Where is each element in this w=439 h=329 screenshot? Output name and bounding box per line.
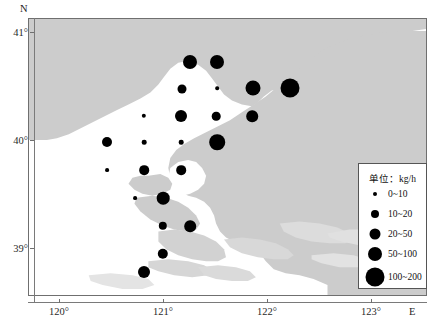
x-axis-line [28,302,427,303]
station-dot [157,192,170,205]
legend-label: 0~10 [388,189,407,199]
x-tick-mark [371,299,372,303]
station-dot [209,134,225,150]
x-tick-mark [59,299,60,303]
station-dot [138,266,150,278]
y-tick-label: 39° [2,243,28,254]
station-dot [105,168,109,172]
legend-label: 50~100 [388,249,417,259]
legend-label: 100~200 [388,272,422,282]
east-axis-label: E [409,306,415,317]
y-tick-mark [30,32,34,33]
x-tick-label: 121° [153,306,173,317]
bubble-map-figure: N E 120°12 [0,0,439,329]
x-tick-mark [163,299,164,303]
station-dot [139,165,149,175]
station-dot [178,85,187,94]
station-dot [179,140,184,145]
station-dot [133,196,137,200]
station-dot [176,165,186,175]
x-tick-mark [267,299,268,303]
legend-swatch [366,268,385,287]
station-dot [210,55,224,69]
y-tick-label: 41° [2,27,28,38]
y-tick-label: 40° [2,135,28,146]
x-tick-label: 123° [361,306,381,317]
station-dot [246,110,258,122]
legend-swatch [370,229,381,240]
y-tick-mark [30,140,34,141]
legend-label: 20~50 [388,229,412,239]
x-tick-label: 122° [257,306,277,317]
legend-title: 单位：kg/h [359,171,426,185]
legend-swatch [373,192,377,196]
station-dot [142,140,147,145]
legend-label: 10~20 [388,209,412,219]
station-dot [246,81,261,96]
legend-box: 单位：kg/h 0~1010~2020~5050~100100~200 [358,163,427,289]
y-axis-line [34,18,35,302]
x-tick-label: 120° [49,306,69,317]
north-axis-label: N [20,3,28,14]
station-dot [184,220,196,232]
station-dot [281,79,300,98]
legend-swatch [368,247,382,261]
station-dot [215,86,219,90]
y-tick-mark [30,248,34,249]
legend-swatch [371,210,379,218]
station-dot [175,110,187,122]
station-dot [212,112,221,121]
station-dot [183,55,197,69]
station-dot [102,137,112,147]
